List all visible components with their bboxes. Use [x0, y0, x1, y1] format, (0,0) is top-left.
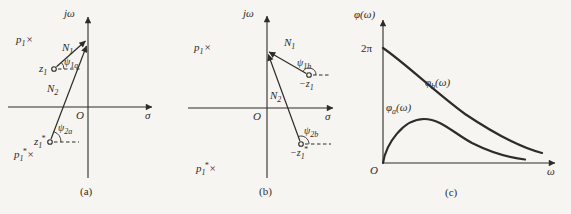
a-vector-n1-label: N1	[62, 42, 73, 53]
c-caption: (c)	[445, 187, 457, 198]
b-zero-negz1conj-marker	[299, 142, 304, 147]
b-caption: (b)	[259, 186, 272, 197]
a-zero-z1conj-label: z1*	[34, 136, 45, 147]
c-phi-axis-label: φ(ω)	[354, 9, 375, 20]
c-curve-phi-a	[383, 119, 525, 163]
c-2pi-tick-label: 2π	[361, 43, 372, 54]
a-caption: (a)	[80, 186, 92, 197]
b-vector-n2-label: N2	[270, 90, 281, 101]
b-zero-negz1-marker	[307, 73, 312, 78]
figure: jω p1× N1 ψ1a z1 N2 O σ ψ2a z1* p1*× (a)…	[0, 0, 571, 214]
c-curve-phib-label: φb(ω)	[425, 77, 450, 88]
panel-c-plot	[383, 20, 555, 163]
a-angle-psi1a-label: ψ1a	[64, 57, 78, 67]
b-pole-p1-label: p1×	[194, 42, 211, 53]
b-angle-psi2b-label: ψ2b	[304, 126, 318, 136]
b-angle-psi1b-label: ψ1b	[297, 58, 311, 68]
a-zero-z1-marker	[52, 67, 57, 72]
c-omega-axis-label: ω	[547, 166, 555, 177]
b-sigma-axis-label: σ	[325, 111, 330, 122]
a-zero-z1-label: z1	[39, 63, 47, 74]
a-sigma-axis-label: σ	[145, 110, 150, 121]
b-zero-negz1conj-label: −z1*	[290, 148, 308, 158]
a-jw-axis-label: jω	[64, 8, 75, 19]
diagram-canvas	[0, 0, 571, 214]
c-curve-phia-label: φa(ω)	[386, 102, 411, 113]
a-angle-psi2a-label: ψ2a	[58, 123, 72, 133]
b-jw-axis-label: jω	[243, 8, 254, 19]
b-zero-negz1-label: −z1	[299, 79, 314, 89]
b-vector-n1-label: N1	[284, 37, 295, 48]
b-pole-p1conj-label: p1*×	[196, 163, 216, 174]
b-origin-label: O	[253, 111, 261, 122]
a-angle-arc-lower	[54, 132, 61, 142]
a-pole-p1conj-label: p1*×	[14, 149, 34, 160]
a-vector-n2-label: N2	[47, 83, 58, 94]
a-zero-z1conj-marker	[48, 140, 53, 145]
a-origin-label: O	[76, 110, 84, 121]
a-pole-p1-label: p1×	[16, 34, 33, 45]
c-origin-label: O	[370, 165, 378, 176]
